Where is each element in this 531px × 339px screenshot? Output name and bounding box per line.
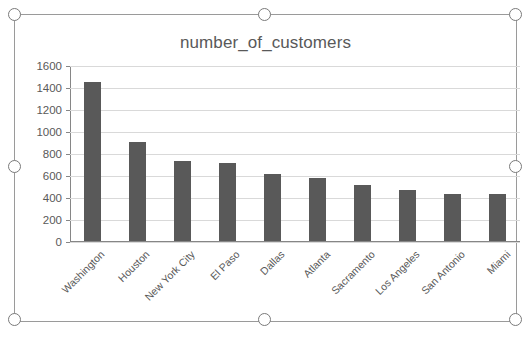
gridline (70, 88, 520, 89)
y-axis-tick (66, 88, 70, 89)
y-axis-tick (66, 220, 70, 221)
bar[interactable] (129, 142, 146, 241)
resize-handle-top-center[interactable] (258, 8, 271, 21)
y-axis-tick (66, 66, 70, 67)
y-axis-tick-label: 800 (43, 148, 62, 160)
chart-title[interactable]: number_of_customers (15, 33, 516, 53)
resize-handle-bottom-left[interactable] (8, 313, 21, 326)
y-axis-tick (66, 154, 70, 155)
gridline (70, 110, 520, 111)
y-axis-tick-label: 1000 (36, 126, 62, 138)
gridline (70, 66, 520, 67)
x-axis-tick-label: Houston (116, 248, 152, 284)
x-axis-tick-label: Atlanta (300, 248, 332, 280)
resize-handle-top-left[interactable] (8, 8, 21, 21)
y-axis-tick (66, 176, 70, 177)
bar[interactable] (309, 178, 326, 241)
y-axis-tick-label: 600 (43, 170, 62, 182)
resize-handle-top-right[interactable] (509, 8, 522, 21)
y-axis-tick (66, 110, 70, 111)
x-axis-tick-label: Miami (484, 248, 512, 276)
bar[interactable] (84, 82, 101, 242)
y-axis-tick-label: 400 (43, 192, 62, 204)
y-axis-tick (66, 242, 70, 243)
gridline (70, 242, 520, 243)
bar[interactable] (354, 185, 371, 241)
y-axis-tick (66, 132, 70, 133)
y-axis-tick-label: 1200 (36, 104, 62, 116)
resize-handle-bottom-right[interactable] (509, 313, 522, 326)
y-axis-tick-label: 1600 (36, 60, 62, 72)
x-axis-tick-label: Los Angeles (373, 248, 422, 297)
bar[interactable] (489, 194, 506, 241)
bar[interactable] (264, 174, 281, 241)
resize-handle-bottom-center[interactable] (258, 313, 271, 326)
plot-area[interactable]: 16001400120010008006004002000 Washington… (70, 66, 520, 242)
x-axis-tick-label: Sacramento (328, 248, 377, 297)
bar[interactable] (174, 161, 191, 241)
x-axis-tick-label: Washington (60, 248, 107, 295)
x-axis-tick-label: Dallas (258, 248, 287, 277)
gridline (70, 132, 520, 133)
bar[interactable] (399, 190, 416, 241)
chart-object[interactable]: number_of_customers 16001400120010008006… (14, 14, 517, 322)
x-axis-tick-label: El Paso (208, 248, 242, 282)
y-axis-tick (66, 198, 70, 199)
y-axis-tick-label: 200 (43, 214, 62, 226)
bar[interactable] (444, 194, 461, 241)
y-axis-tick-label: 0 (56, 236, 62, 248)
resize-handle-middle-right[interactable] (509, 160, 522, 173)
y-axis-tick-label: 1400 (36, 82, 62, 94)
bar[interactable] (219, 163, 236, 241)
x-axis-tick-label: San Antonio (418, 248, 467, 297)
resize-handle-middle-left[interactable] (8, 160, 21, 173)
